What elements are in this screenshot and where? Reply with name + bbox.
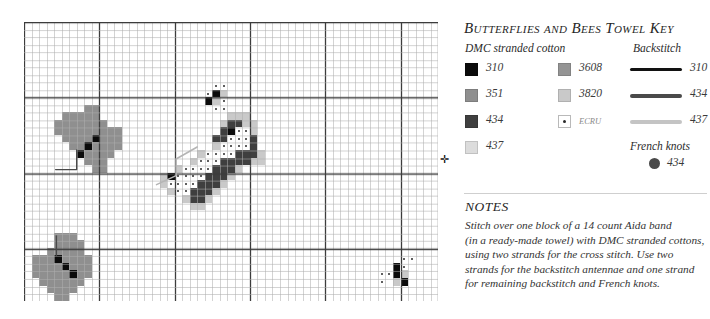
- ecru-symbol-dot: [223, 108, 225, 110]
- floss-code-label: 437: [486, 139, 503, 151]
- stitch-cell: [84, 150, 92, 158]
- stitch-cell: [92, 127, 100, 135]
- floss-code-label: ECRU: [579, 116, 601, 126]
- ecru-symbol-dot: [200, 175, 202, 177]
- stitch-cell: [250, 135, 258, 143]
- stitch-cell: [32, 263, 40, 271]
- ecru-symbol-dot: [381, 273, 383, 275]
- stitch-cell: [182, 165, 190, 173]
- ecru-symbol-dot: [223, 100, 225, 102]
- stitch-cell: [92, 142, 100, 150]
- stitch-cell: [54, 293, 62, 301]
- stitch-cell: [77, 120, 85, 128]
- ecru-symbol-dot: [230, 145, 232, 147]
- color-swatch: [465, 63, 478, 76]
- ecru-symbol-dot: [215, 160, 217, 162]
- stitch-cell: [220, 142, 228, 150]
- stitch-cell: [182, 173, 190, 181]
- stitch-cell: [227, 135, 235, 143]
- stitch-cell: [114, 127, 122, 135]
- stitch-cell: [54, 233, 62, 241]
- stitch-cell: [205, 195, 213, 203]
- stitch-cell: [250, 142, 258, 150]
- stitch-cell: [92, 120, 100, 128]
- stitch-cell: [190, 195, 198, 203]
- stitch-cell: [160, 173, 168, 181]
- stitch-cell: [175, 180, 183, 188]
- stitch-cell: [220, 150, 228, 158]
- stitch-cell: [197, 195, 205, 203]
- stitch-cell: [167, 180, 175, 188]
- stitch-cell: [62, 233, 70, 241]
- stitch-cell: [205, 97, 213, 105]
- stitch-cell: [220, 90, 228, 98]
- stitch-cell: [69, 248, 77, 256]
- stitch-cell: [212, 135, 220, 143]
- stitch-cell: [205, 150, 213, 158]
- stitch-cell: [62, 263, 70, 271]
- stitch-cell: [242, 135, 250, 143]
- stitch-cell: [39, 278, 47, 286]
- stitch-cell: [99, 135, 107, 143]
- stitch-cell: [84, 270, 92, 278]
- stitch-cell: [257, 150, 265, 158]
- stitch-cell: [220, 97, 228, 105]
- subheading-backstitch: Backstitch: [633, 42, 681, 54]
- stitch-cell: [62, 278, 70, 286]
- ecru-symbol-dot: [403, 266, 405, 268]
- backstitch-code-label: 437: [690, 113, 707, 125]
- stitch-cell: [235, 120, 243, 128]
- pattern-grid[interactable]: [24, 22, 438, 301]
- stitch-cell: [77, 248, 85, 256]
- stitch-cell: [212, 142, 220, 150]
- stitch-cell: [47, 270, 55, 278]
- subheading-dmc: DMC stranded cotton: [465, 42, 565, 54]
- stitch-cell: [99, 142, 107, 150]
- stitch-cell: [212, 180, 220, 188]
- stitch-cell: [182, 188, 190, 196]
- floss-code-label: 434: [486, 113, 503, 125]
- stitch-cell: [54, 278, 62, 286]
- ecru-symbol-dot: [192, 183, 194, 185]
- stitch-cell: [77, 240, 85, 248]
- stitch-cell: [39, 255, 47, 263]
- stitch-cell: [84, 127, 92, 135]
- color-swatch: [465, 141, 478, 154]
- stitch-cell: [220, 158, 228, 166]
- subheading-french-knots: French knots: [630, 140, 690, 152]
- color-swatch: [558, 89, 571, 102]
- color-swatch: [465, 115, 478, 128]
- stitch-cell: [69, 120, 77, 128]
- stitch-cell: [242, 158, 250, 166]
- stitch-cell: [190, 203, 198, 211]
- stitch-cell: [32, 255, 40, 263]
- stitch-cell: [69, 278, 77, 286]
- stitch-cell: [227, 112, 235, 120]
- stitch-cell: [92, 158, 100, 166]
- stitch-cell: [242, 112, 250, 120]
- ecru-symbol-dot: [411, 258, 413, 260]
- stitch-cell: [69, 255, 77, 263]
- stitch-cell: [99, 158, 107, 166]
- stitch-cell: [175, 188, 183, 196]
- stitch-cell: [39, 270, 47, 278]
- stitch-cell: [235, 142, 243, 150]
- stitch-cell: [84, 255, 92, 263]
- floss-code-label: 3608: [579, 61, 602, 73]
- ecru-symbol-dot: [207, 153, 209, 155]
- stitch-cell: [62, 248, 70, 256]
- stitch-cell: [212, 158, 220, 166]
- ecru-symbol-dot: [223, 153, 225, 155]
- stitch-cell: [220, 105, 228, 113]
- stitch-cell: [197, 188, 205, 196]
- notes-line: using two strands for the cross stitch. …: [465, 247, 708, 262]
- stitch-cell: [197, 173, 205, 181]
- ecru-symbol-dot: [403, 258, 405, 260]
- stitch-cell: [54, 286, 62, 294]
- stitch-cell: [99, 150, 107, 158]
- stitch-cell: [107, 142, 115, 150]
- stitch-cell: [107, 135, 115, 143]
- stitch-cell: [77, 150, 85, 158]
- french-knot-code-label: 434: [667, 156, 684, 168]
- ecru-symbol-dot: [207, 168, 209, 170]
